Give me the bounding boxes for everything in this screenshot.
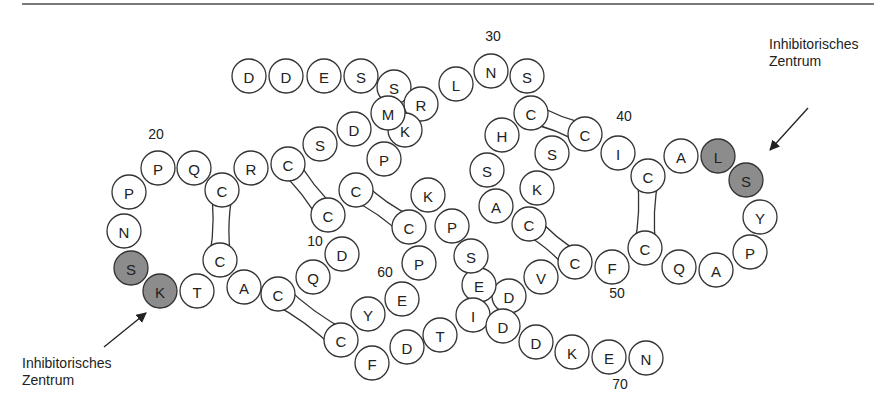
svg-text:C: C [273,287,284,304]
residue: C [339,173,373,207]
position-number: 60 [377,264,393,280]
residue: K [555,335,589,369]
residue: V [524,260,558,294]
svg-text:C: C [323,208,334,225]
svg-text:A: A [676,149,686,166]
svg-text:C: C [215,253,226,270]
svg-text:T: T [192,284,201,301]
svg-text:D: D [337,247,348,264]
residue: C [205,173,239,207]
position-number: 40 [616,108,632,124]
residue: T [180,274,214,308]
svg-text:S: S [356,69,366,86]
inhibitory-residue: S [114,251,148,285]
residue: C [568,117,602,151]
residue: C [311,198,345,232]
svg-text:E: E [319,69,329,86]
residue: Y [743,200,777,234]
residue: F [355,346,389,380]
residue: D [492,279,526,313]
svg-text:T: T [435,328,444,345]
residue: C [514,96,548,130]
inhibitory-residue: K [143,274,177,308]
svg-text:E: E [604,350,614,367]
residue: S [344,59,378,93]
svg-text:C: C [217,183,228,200]
inhibitory-residue: S [729,163,763,197]
residue: C [631,159,665,193]
svg-text:S: S [482,163,492,180]
svg-text:C: C [643,169,654,186]
residue: P [733,235,767,269]
position-number: 70 [612,376,628,392]
protein-diagram: DDESSRLNSCHSACKSCICALSYPAQCFCVDESPKCCPKM… [0,0,895,408]
label-right-line2: Zentrum [769,53,859,70]
residue: A [699,253,733,287]
svg-text:L: L [714,149,722,166]
residue: D [390,330,424,364]
svg-text:C: C [283,157,294,174]
svg-text:K: K [155,284,165,301]
residue: Q [177,151,211,185]
inhibitory-center-label-right: Inhibitorisches Zentrum [769,36,859,70]
svg-text:K: K [423,188,433,205]
label-right-line1: Inhibitorisches [769,36,859,53]
amino-acid-chain-svg: DDESSRLNSCHSACKSCICALSYPAQCFCVDESPKCCPKM… [0,0,895,408]
svg-text:S: S [126,261,136,278]
residue: F [595,250,629,284]
residue: P [112,175,146,209]
residue: C [512,207,546,241]
svg-text:I: I [471,308,475,325]
svg-text:N: N [119,224,130,241]
residue: D [269,59,303,93]
residue: D [519,325,553,359]
svg-text:P: P [124,185,134,202]
svg-text:D: D [281,69,292,86]
svg-text:D: D [504,289,515,306]
svg-text:Q: Q [188,161,200,178]
label-left-line2: Zentrum [22,372,112,389]
svg-text:S: S [466,249,476,266]
svg-text:S: S [547,146,557,163]
svg-text:C: C [524,217,535,234]
residue: R [234,151,268,185]
svg-text:F: F [367,356,376,373]
svg-text:P: P [153,161,163,178]
residue: E [385,282,419,316]
residue: E [307,59,341,93]
residue: P [367,142,401,176]
residue: P [141,151,175,185]
svg-text:C: C [351,183,362,200]
residue-circles: DDESSRLNSCHSACKSCICALSYPAQCFCVDESPKCCPKM… [107,54,777,380]
svg-text:P: P [379,152,389,169]
inhibitory-center-label-left: Inhibitorisches Zentrum [22,355,112,389]
svg-text:A: A [491,199,501,216]
residue: Q [296,260,330,294]
residue: I [456,298,490,332]
svg-text:P: P [745,245,755,262]
svg-text:E: E [397,292,407,309]
svg-text:D: D [498,319,509,336]
svg-text:D: D [531,335,542,352]
residue: A [664,139,698,173]
svg-text:K: K [532,181,542,198]
position-number: 30 [485,28,501,44]
svg-text:D: D [244,69,255,86]
svg-text:K: K [567,345,577,362]
residue: C [392,210,426,244]
svg-text:C: C [336,333,347,350]
residue: T [423,318,457,352]
residue: I [601,136,635,170]
residue: P [402,246,436,280]
svg-text:Y: Y [755,210,765,227]
svg-text:S: S [389,80,399,97]
svg-text:V: V [536,270,546,287]
residue: D [486,309,520,343]
svg-text:C: C [570,255,581,272]
residue: C [324,323,358,357]
svg-text:K: K [400,123,410,140]
residue: Y [351,297,385,331]
svg-text:A: A [711,263,721,280]
svg-text:R: R [416,97,427,114]
svg-text:E: E [474,278,484,295]
